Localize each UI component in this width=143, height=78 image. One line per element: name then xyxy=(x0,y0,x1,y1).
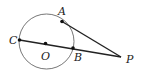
label-b: B xyxy=(73,51,82,64)
label-o: O xyxy=(41,50,50,63)
point-o xyxy=(44,42,48,46)
point-a xyxy=(60,20,64,24)
label-a: A xyxy=(57,5,66,18)
point-b xyxy=(71,46,75,50)
geometry-diagram: A C O B P xyxy=(0,0,143,78)
point-c xyxy=(18,38,22,42)
label-c: C xyxy=(9,34,18,47)
label-p: P xyxy=(125,53,134,66)
